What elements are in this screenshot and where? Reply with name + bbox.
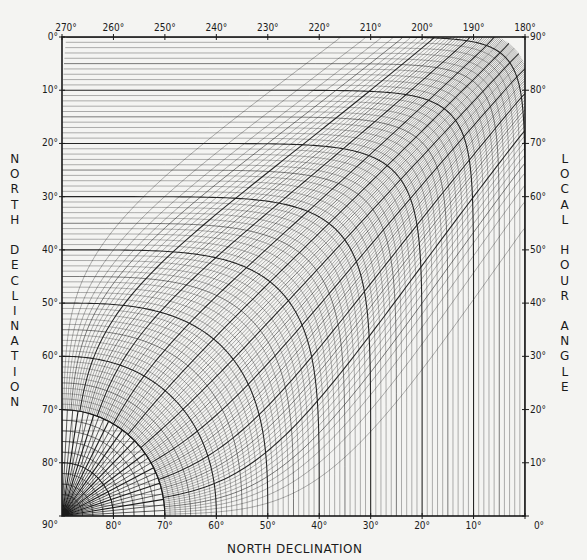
bottom-tick-label: 60° [208, 520, 224, 531]
bottom-axis-labels: 80°70°60°50°40°30°20°10°0° [105, 520, 544, 531]
top-tick-label: 260° [103, 22, 125, 33]
grid-lines [61, 27, 534, 517]
top-tick-label: 200° [411, 22, 433, 33]
right-tick-label: 10° [530, 457, 546, 468]
left-tick-label: 30° [42, 191, 58, 202]
bottom-axis-title: NORTH DECLINATION [227, 542, 363, 556]
bottom-tick-label: 80° [105, 520, 121, 531]
left-tick-label: 0° [48, 31, 58, 42]
left-axis-title: NORTH DECLINATION [10, 152, 19, 410]
bottom-tick-label: 30° [363, 520, 379, 531]
bottom-tick-label: 10° [466, 520, 482, 531]
bottom-tick-label: 50° [260, 520, 276, 531]
left-tick-label: 60° [42, 350, 58, 361]
top-tick-label: 240° [205, 22, 227, 33]
bottom-tick-label: 40° [311, 520, 327, 531]
left-tick-label: 10° [42, 84, 58, 95]
top-tick-label: 220° [308, 22, 330, 33]
right-tick-label: 90° [530, 31, 546, 42]
left-tick-label: 70° [42, 404, 58, 415]
top-tick-label: 190° [463, 22, 485, 33]
right-tick-label: 30° [530, 350, 546, 361]
top-tick-label: 270° [55, 22, 77, 33]
right-tick-label: 20° [530, 404, 546, 415]
right-axis-title: LOCAL HOUR ANGLE [560, 152, 569, 395]
top-tick-label: 210° [360, 22, 382, 33]
right-tick-label: 80° [530, 84, 546, 95]
left-tick-label: 90° [42, 519, 58, 530]
left-tick-label: 20° [42, 137, 58, 148]
bottom-tick-label: 0° [534, 520, 544, 531]
right-tick-label: 60° [530, 191, 546, 202]
right-tick-label: 70° [530, 137, 546, 148]
bottom-tick-label: 20° [414, 520, 430, 531]
top-axis-labels: 270°260°250°240°230°220°210°200°190°180° [55, 22, 536, 33]
top-tick-label: 230° [257, 22, 279, 33]
left-tick-label: 80° [42, 457, 58, 468]
right-axis-labels: 90°80°70°60°50°40°30°20°10° [530, 31, 546, 468]
left-tick-label: 50° [42, 297, 58, 308]
left-tick-label: 40° [42, 244, 58, 255]
bottom-tick-label: 70° [157, 520, 173, 531]
left-axis-labels: 0°10°20°30°40°50°60°70°80°90° [42, 31, 58, 530]
right-tick-label: 50° [530, 244, 546, 255]
top-tick-label: 250° [154, 22, 176, 33]
nomogram-chart: 270°260°250°240°230°220°210°200°190°180°… [0, 0, 587, 560]
right-tick-label: 40° [530, 297, 546, 308]
